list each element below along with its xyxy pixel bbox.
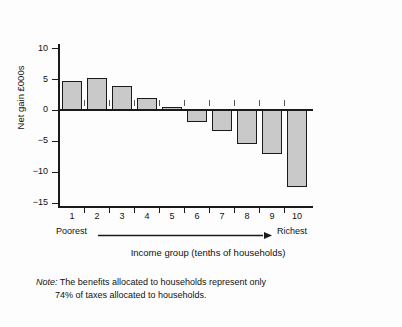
bar-10 — [287, 110, 307, 187]
x-tick-label-6: 6 — [185, 211, 209, 221]
y-tick-label-0: 0 — [20, 105, 48, 114]
x-tick-label-10: 10 — [285, 211, 309, 221]
right-arrow-icon — [98, 231, 272, 240]
bar-3 — [112, 86, 132, 110]
x-tick-mark-8 — [259, 100, 260, 106]
bar-2 — [87, 78, 107, 110]
x-tick-mark-3 — [134, 100, 135, 106]
x-axis-title: Income group (tenths of households) — [58, 247, 358, 258]
x-tick-label-8: 8 — [235, 211, 259, 221]
bar-1 — [62, 81, 82, 110]
y-tick-label-5: 5 — [20, 75, 48, 84]
x-tick-mark-2 — [109, 100, 110, 106]
figure-note: Note: The benefits allocated to househol… — [36, 276, 366, 301]
x-tick-label-7: 7 — [210, 211, 234, 221]
y-tick-label-10: 10 — [20, 44, 48, 53]
x-tick-label-5: 5 — [160, 211, 184, 221]
y-tick-label-neg10: −10 — [20, 167, 48, 176]
x-tick-label-2: 2 — [85, 211, 109, 221]
bar-7 — [212, 110, 232, 131]
y-tick-label-neg5: −5 — [20, 136, 48, 145]
bar-9 — [262, 110, 282, 154]
note-line-1: The benefits allocated to households rep… — [60, 277, 266, 287]
note-label: Note: — [36, 277, 58, 287]
x-tick-mark-7 — [234, 100, 235, 106]
x-tick-label-1: 1 — [60, 211, 84, 221]
x-tick-mark-1 — [84, 100, 85, 106]
x-tick-mark-4 — [159, 100, 160, 106]
x-tick-mark-9 — [284, 100, 285, 106]
x-tick-mark-6 — [209, 100, 210, 106]
poorest-label: Poorest — [56, 226, 87, 236]
note-line-2: 74% of taxes allocated to households. — [55, 289, 366, 302]
zero-baseline — [58, 109, 313, 111]
x-tick-label-3: 3 — [110, 211, 134, 221]
richest-label: Richest — [277, 226, 307, 236]
x-tick-label-9: 9 — [260, 211, 284, 221]
x-axis-line — [58, 206, 313, 208]
x-tick-label-4: 4 — [135, 211, 159, 221]
bar-8 — [237, 110, 257, 144]
y-axis-line — [58, 44, 60, 208]
y-tick-label-neg15: −15 — [20, 198, 48, 207]
figure-container: Net gain £000s 10 5 0 −5 −10 −15 1 2 — [0, 0, 402, 327]
bar-6 — [187, 110, 207, 122]
x-tick-mark-5 — [184, 100, 185, 106]
